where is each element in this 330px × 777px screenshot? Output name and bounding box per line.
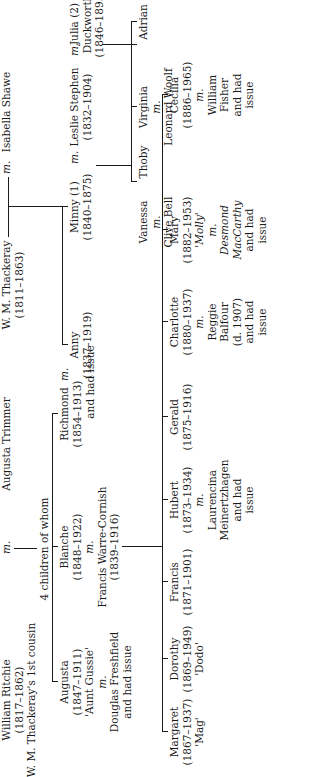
sibling-line xyxy=(52,414,53,682)
marriage-marker: m. xyxy=(68,151,80,164)
sibling-line xyxy=(131,21,132,45)
descent-line xyxy=(102,44,132,45)
person-mary: Mary (1882–1953) 'Molly' m. Desmond MacC… xyxy=(168,197,268,264)
sibling-line xyxy=(62,206,63,345)
person-blanche: Blanche (1848–1922) m. Francis Warre-Cor… xyxy=(58,487,121,608)
descent-line xyxy=(14,548,37,549)
marriage-marker: m. xyxy=(0,161,12,174)
person-dorothy: Dorothy (1869–1949) 'Dodo' xyxy=(168,626,206,693)
person-anny: Anny (1837–1919) xyxy=(68,312,93,379)
person-hubert: Hubert (1873–1934) m. Laurencina Meinert… xyxy=(168,460,256,541)
descent-line xyxy=(8,206,62,207)
person-isabella-shawe: Isabella Shawe xyxy=(0,72,13,152)
sibling-line xyxy=(162,95,163,732)
person-margaret: Margaret (1867–1937) 'Mag' xyxy=(168,699,206,766)
person-william-ritchie: William Ritchie (1817–1862) W. M. Thacke… xyxy=(0,623,38,777)
descent-line xyxy=(96,165,132,166)
sibling-line xyxy=(131,45,132,182)
person-thoby: Thoby xyxy=(137,146,150,179)
person-augusta: Augusta (1847–1911) 'Aunt Gussie' m. Dou… xyxy=(58,632,133,733)
descent-line xyxy=(122,546,162,547)
child-tick xyxy=(131,181,137,182)
children-note: 4 children of whom xyxy=(38,497,51,600)
person-adrian: Adrian xyxy=(137,4,150,40)
person-leslie-stephen: Leslie Stephen (1832–1904) xyxy=(68,68,93,147)
marriage-line xyxy=(8,177,9,237)
person-richmond: Richmond (1854–1913) xyxy=(58,381,83,448)
person-wm-thackeray: W. M. Thackeray (1811–1863) xyxy=(0,241,25,330)
person-francis: Francis (1871–1901) xyxy=(168,549,193,616)
person-minny: Minny (1) (1840–1875) xyxy=(68,174,93,241)
marriage-marker: m. xyxy=(0,541,12,554)
person-gerald: Gerald (1875–1916) xyxy=(168,384,193,451)
person-charlotte: Charlotte (1880–1937) m. Reggie Balfour … xyxy=(168,289,268,356)
person-cecilia: Cecilia (1886–1965) m. William Fisher an… xyxy=(168,62,256,129)
person-julia-duckworth: Julia (2) Duckworth (1846–1895) xyxy=(68,0,106,57)
person-augusta-trimmer: Augusta Trimmer xyxy=(0,397,13,491)
